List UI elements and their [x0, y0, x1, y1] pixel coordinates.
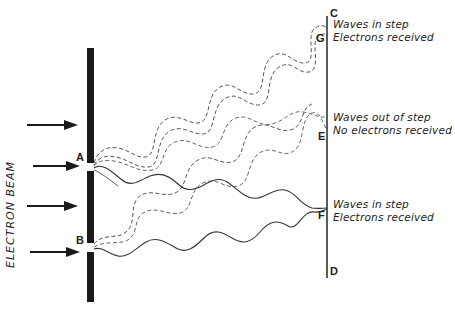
- waves-to-g: [94, 26, 327, 244]
- waves-to-f: [94, 166, 327, 256]
- annotation-f-line1: Waves in step: [333, 198, 434, 211]
- annotation-e-line2: No electrons received: [333, 124, 452, 137]
- annotation-e-line1: Waves out of step: [333, 111, 452, 124]
- annotation-g-line1: Waves in step: [333, 18, 434, 31]
- point-e-label: E: [318, 131, 325, 142]
- beam-arrows: [27, 120, 80, 257]
- barrier: [87, 48, 94, 302]
- electron-beam-label: ELECTRON BEAM: [4, 161, 17, 268]
- wave-a-solid-short: [94, 170, 118, 186]
- point-f-label: F: [318, 210, 325, 221]
- point-g-label: G: [316, 33, 325, 44]
- annotation-f-line2: Electrons received: [333, 211, 434, 224]
- point-d-label: D: [330, 266, 338, 277]
- annotation-g-line2: Electrons received: [333, 31, 434, 44]
- annotation-g: Waves in step Electrons received: [333, 18, 434, 44]
- slit-a-label: A: [76, 152, 84, 163]
- annotation-e: Waves out of step No electrons received: [333, 111, 452, 137]
- annotation-f: Waves in step Electrons received: [333, 198, 434, 224]
- interference-diagram: [0, 0, 455, 310]
- slit-b-label: B: [76, 235, 84, 246]
